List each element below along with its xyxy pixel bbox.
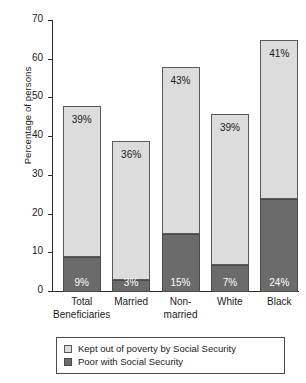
x-axis-category-labels: TotalBeneficiariesMarriedNon-marriedWhit… <box>52 296 299 326</box>
y-axis-tick-label: 70 <box>23 13 43 24</box>
legend-swatch-dark-icon <box>64 358 72 366</box>
y-axis-tick-label: 20 <box>23 207 43 218</box>
bar-value-label: 39% <box>212 122 248 133</box>
bar-segment-poor-with-social-security[interactable]: 15% <box>162 234 200 292</box>
bar-segment-kept-out-of-poverty[interactable]: 39% <box>211 114 249 265</box>
bar-group[interactable]: 36%3% <box>112 141 150 292</box>
bar-segment-poor-with-social-security[interactable]: 3% <box>112 280 150 292</box>
bar-value-label: 9% <box>64 277 100 288</box>
bar-segment-kept-out-of-poverty[interactable]: 41% <box>260 40 298 199</box>
bar-group[interactable]: 39%7% <box>211 114 249 292</box>
bar-segment-poor-with-social-security[interactable]: 7% <box>211 265 249 292</box>
bar-value-label: 41% <box>261 48 297 59</box>
x-axis-category-label: Black <box>246 296 306 309</box>
bar-segment-poor-with-social-security[interactable]: 9% <box>63 257 101 292</box>
legend-item-kept-out-of-poverty: Kept out of poverty by Social Security <box>64 342 278 355</box>
legend-label: Kept out of poverty by Social Security <box>78 343 236 354</box>
y-axis-tick-label: 60 <box>23 52 43 63</box>
bar-segment-kept-out-of-poverty[interactable]: 39% <box>63 106 101 257</box>
legend-swatch-light-icon <box>64 345 72 353</box>
bar-group[interactable]: 43%15% <box>162 67 200 292</box>
bar-series-container: 39%9%36%3%43%15%39%7%41%24% <box>52 21 299 292</box>
y-axis-tick-label: 0 <box>23 284 43 295</box>
y-axis-tick-label: 40 <box>23 129 43 140</box>
y-axis-tick-label: 30 <box>23 168 43 179</box>
bar-value-label: 36% <box>113 149 149 160</box>
stacked-bar-chart: Percentage of persons 010203040506070 39… <box>0 0 306 383</box>
bar-segment-poor-with-social-security[interactable]: 24% <box>260 199 298 292</box>
bar-group[interactable]: 41%24% <box>260 40 298 292</box>
category-label-line: Black <box>246 296 306 309</box>
bar-group[interactable]: 39%9% <box>63 106 101 292</box>
chart-legend: Kept out of poverty by Social Security P… <box>56 337 285 374</box>
category-label-line: Beneficiaries <box>49 309 115 322</box>
y-axis-tick-label: 10 <box>23 245 43 256</box>
bar-value-label: 15% <box>163 277 199 288</box>
legend-item-poor-with-social-security: Poor with Social Security <box>64 355 278 368</box>
bar-value-label: 3% <box>113 277 149 288</box>
legend-label: Poor with Social Security <box>78 356 183 367</box>
y-axis-tick-label: 50 <box>23 90 43 101</box>
bar-value-label: 24% <box>261 277 297 288</box>
bar-segment-kept-out-of-poverty[interactable]: 43% <box>162 67 200 233</box>
plot-area: 010203040506070 39%9%36%3%43%15%39%7%41%… <box>52 21 299 292</box>
bar-value-label: 7% <box>212 277 248 288</box>
bar-segment-kept-out-of-poverty[interactable]: 36% <box>112 141 150 280</box>
bar-value-label: 43% <box>163 75 199 86</box>
bar-value-label: 39% <box>64 114 100 125</box>
category-label-line: married <box>148 309 214 322</box>
